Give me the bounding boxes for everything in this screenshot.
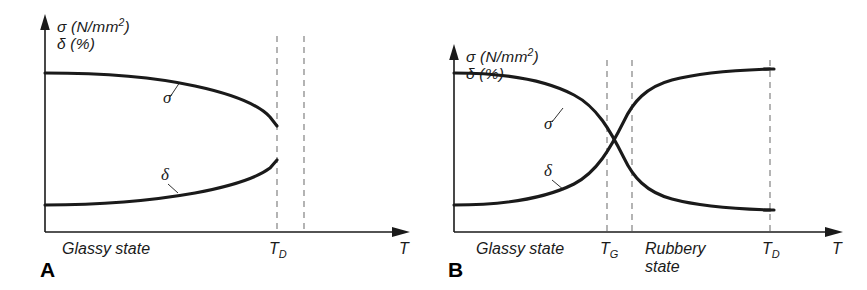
- region-label-rubbery-b: Rubbery state: [645, 240, 737, 276]
- curve-sigma-a: [45, 73, 277, 126]
- curve-label-sigma-a: σ: [163, 88, 171, 107]
- tick-label-td-b: TD: [762, 240, 780, 258]
- y-axis-units-b: σ (N/mm2) δ (%): [466, 48, 539, 83]
- curve-label-delta-b: δ: [544, 161, 552, 180]
- y-axis-paren-b: ): [534, 48, 539, 65]
- figure-root: σ (N/mm2) δ (%) σ δ Glassy state TD T A: [0, 0, 867, 290]
- tick-label-tg-b: TG: [600, 240, 618, 258]
- tick-label-td-a: TD: [269, 240, 287, 258]
- x-axis-b: [454, 227, 843, 237]
- y-axis-a: [40, 14, 50, 232]
- leader-sigma-a: [170, 82, 180, 97]
- region-label-glassy-a: Glassy state: [62, 240, 150, 258]
- tick-tg-letter-b: T: [600, 240, 610, 257]
- y-axis-delta-unit-b: δ (%): [466, 65, 504, 82]
- panel-letter-a: A: [40, 258, 55, 282]
- x-axis-name-a: T: [399, 240, 409, 258]
- y-axis-paren-a: ): [125, 18, 130, 35]
- panel-b: σ (N/mm2) δ (%) σ δ Glassy state TG Rubb…: [434, 0, 867, 290]
- y-axis-units-a: σ (N/mm2) δ (%): [57, 18, 130, 53]
- leader-delta-a: [168, 184, 178, 193]
- y-axis-sigma-unit-b: σ (N/mm: [466, 48, 528, 65]
- curve-label-delta-a: δ: [161, 165, 169, 184]
- tick-td-letter-b: T: [762, 240, 772, 257]
- tick-td-subscript-b: D: [772, 248, 780, 260]
- curve-label-sigma-b: σ: [544, 114, 552, 133]
- x-axis-a: [45, 227, 410, 237]
- region-label-glassy-b: Glassy state: [476, 240, 564, 258]
- y-axis-sigma-unit-a: σ (N/mm: [57, 18, 119, 35]
- y-axis-delta-unit-a: δ (%): [57, 35, 95, 52]
- leader-sigma-b: [552, 108, 563, 122]
- tick-td-subscript-a: D: [279, 248, 287, 260]
- panel-letter-b: B: [448, 258, 463, 282]
- leader-delta-b: [552, 180, 564, 190]
- panel-a: σ (N/mm2) δ (%) σ δ Glassy state TD T A: [0, 0, 434, 290]
- x-axis-name-b: T: [832, 240, 842, 258]
- tick-tg-subscript-b: G: [610, 248, 619, 260]
- tick-td-letter-a: T: [269, 240, 279, 257]
